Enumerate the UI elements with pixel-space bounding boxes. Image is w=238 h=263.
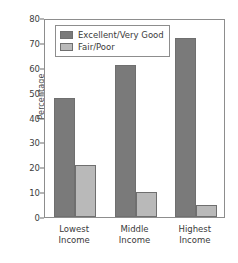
chart-legend: Excellent/Very GoodFair/Poor [55, 25, 170, 57]
y-tick-mark [40, 143, 44, 144]
plot-area: Excellent/Very GoodFair/Poor [44, 19, 225, 218]
y-tick-label: 40 [16, 114, 40, 124]
x-axis-category-label: HighestIncome [165, 224, 225, 246]
x-axis-category-line: Middle [105, 224, 165, 235]
bar-0-0 [54, 98, 75, 217]
y-tick-label: 60 [16, 64, 40, 74]
bar-1-1 [136, 192, 157, 217]
x-axis-category-line: Lowest [44, 224, 104, 235]
legend-item: Fair/Poor [60, 41, 164, 53]
x-axis-category-line: Income [44, 235, 104, 246]
x-axis-category-label: MiddleIncome [105, 224, 165, 246]
y-tick-label: 20 [16, 163, 40, 173]
bar-0-1 [115, 65, 136, 217]
y-tick-mark [40, 168, 44, 169]
y-tick-label: 80 [16, 14, 40, 24]
y-tick-label: 30 [16, 138, 40, 148]
x-axis-category-line: Income [105, 235, 165, 246]
legend-item: Excellent/Very Good [60, 29, 164, 41]
y-tick-mark [40, 93, 44, 94]
y-tick-mark [40, 19, 44, 20]
y-tick-mark [40, 43, 44, 44]
bar-chart: Percentage 01020304050607080 Excellent/V… [0, 0, 238, 263]
legend-label: Excellent/Very Good [78, 30, 164, 40]
x-axis-category-line: Highest [165, 224, 225, 235]
legend-label: Fair/Poor [78, 42, 115, 52]
bar-1-2 [196, 205, 217, 217]
y-axis-ticks: 01020304050607080 [16, 0, 40, 263]
y-tick-mark [40, 68, 44, 69]
bar-1-0 [75, 165, 96, 217]
y-tick-label: 50 [16, 89, 40, 99]
x-axis-category-label: LowestIncome [44, 224, 104, 246]
legend-swatch-icon [60, 31, 73, 39]
x-axis-category-line: Income [165, 235, 225, 246]
y-tick-label: 10 [16, 188, 40, 198]
y-tick-mark [40, 118, 44, 119]
y-tick-label: 70 [16, 39, 40, 49]
legend-swatch-icon [60, 43, 73, 51]
y-tick-mark [40, 193, 44, 194]
x-axis-labels: LowestIncomeMiddleIncomeHighestIncome [44, 224, 225, 258]
y-tick-label: 0 [16, 213, 40, 223]
y-tick-mark [40, 218, 44, 219]
bar-0-2 [175, 38, 196, 217]
